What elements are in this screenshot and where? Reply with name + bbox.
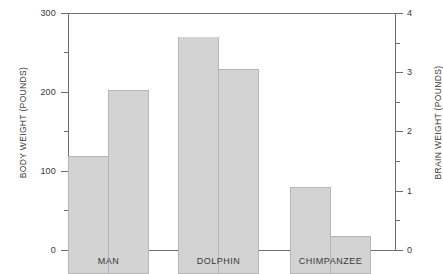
right-tick-label-0: 0: [407, 246, 412, 255]
left-tick-300: [61, 13, 69, 14]
right-tick-3: [395, 72, 403, 73]
bar-man-brain: [108, 90, 149, 274]
right-tick-2: [395, 131, 403, 132]
right-tick-1-5: [395, 161, 400, 162]
right-tick-3-5: [395, 43, 400, 44]
right-tick-label-3: 3: [407, 68, 412, 77]
left-tick-250: [64, 52, 69, 53]
right-tick-0-5: [395, 220, 400, 221]
right-tick-4: [395, 13, 403, 14]
right-tick-2-5: [395, 102, 400, 103]
right-tick-1: [395, 191, 403, 192]
left-tick-label-0: 0: [51, 246, 56, 255]
bar-dolphin-brain: [218, 69, 259, 274]
left-tick-200: [61, 92, 69, 93]
x-label-chimpanzee: CHIMPANZEE: [290, 256, 371, 266]
left-tick-label-300: 300: [40, 9, 56, 18]
left-tick-label-200: 200: [40, 88, 56, 97]
left-tick-150: [64, 131, 69, 132]
y-axis-title-left: BODY WEIGHT (POUNDS): [19, 53, 28, 193]
right-tick-label-4: 4: [407, 9, 412, 18]
y-axis-title-right: BRAIN WEIGHT (POUNDS): [434, 53, 443, 193]
bar-dolphin-body: [178, 37, 219, 274]
left-tick-label-100: 100: [40, 167, 56, 176]
axis-right-line: [395, 13, 396, 251]
right-tick-0: [395, 250, 403, 251]
x-label-man: MAN: [68, 256, 149, 266]
x-label-dolphin: DOLPHIN: [178, 256, 259, 266]
axis-top-line: [68, 13, 396, 14]
right-tick-label-1: 1: [407, 187, 412, 196]
bar-chimpanzee-brain: [330, 236, 371, 274]
right-tick-label-2: 2: [407, 127, 412, 136]
